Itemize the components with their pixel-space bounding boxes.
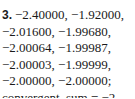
exercise-number: 3. xyxy=(2,8,12,22)
answer-line-4: −2.00003, −1.99999, xyxy=(2,57,135,74)
answer-block: 3.−2.40000, −1.92000, −2.01600, −1.99680… xyxy=(0,0,135,98)
answer-line-2: −2.01600, −1.99680, xyxy=(2,24,135,41)
answer-line-3: −2.00064, −1.99987, xyxy=(2,40,135,57)
answer-line-1: 3.−2.40000, −1.92000, xyxy=(2,7,135,24)
answer-line-5: −2.00000, −2.00000; xyxy=(2,73,135,90)
sequence-values: −2.40000, −1.92000, xyxy=(15,7,124,22)
conclusion-line: convergent, sum = −2 xyxy=(2,90,135,99)
